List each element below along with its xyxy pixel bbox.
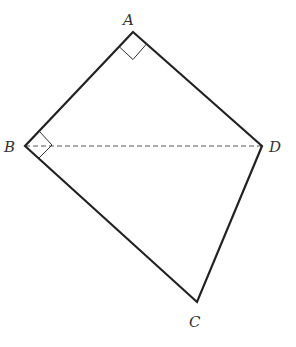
vertex-label-c: C [189,313,201,331]
vertex-label-b: B [3,138,15,156]
vertex-label-a: A [121,11,134,29]
vertex-label-d: D [268,138,281,156]
right-angle-mark-b [39,131,52,158]
right-angle-mark-a [120,44,147,60]
quadrilateral-abcd [25,32,262,302]
quadrilateral-diagram: A B D C [0,0,296,347]
